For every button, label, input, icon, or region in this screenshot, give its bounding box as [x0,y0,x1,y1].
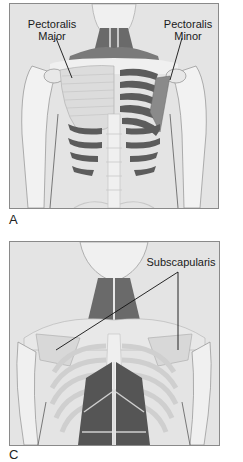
panel-letter-c: C [9,447,18,462]
label-line: Pectoralis [22,18,82,30]
label-subscapularis: Subscapularis [146,256,216,268]
panel-a-pectoral-muscles: Pectoralis Major Pectoralis Minor [9,3,219,209]
label-line: Subscapularis [146,256,216,268]
label-pectoralis-minor: Pectoralis Minor [158,18,218,42]
panel-b-subscapularis: Subscapularis [9,241,220,446]
subscapularis-anatomy-illustration [10,242,219,445]
label-pectoralis-major: Pectoralis Major [22,18,82,42]
label-line: Pectoralis [158,18,218,30]
panel-letter-a: A [9,212,18,227]
label-line: Major [22,30,82,42]
label-line: Minor [158,30,218,42]
